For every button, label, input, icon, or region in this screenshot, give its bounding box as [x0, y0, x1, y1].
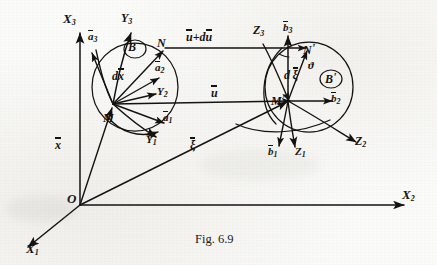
label-axis-x3: X3 [63, 12, 76, 27]
label-axis-y2: Y2 [157, 86, 168, 99]
label-basis-b1: b1 [268, 146, 278, 159]
basis-vector-a3 [92, 53, 113, 104]
figure-caption: Fig. 6.9 [195, 232, 234, 247]
label-basis-a3: a3 [88, 31, 98, 44]
global-axis-x1 [28, 205, 80, 247]
label-axis-y3: Y3 [121, 12, 132, 26]
label-u-plus-du: u+du [186, 31, 212, 43]
label-axis-x1: X1 [26, 242, 39, 257]
label-vector-d-xi-bar: d ξ [284, 69, 298, 81]
label-axis-z3: Z3 [253, 24, 264, 38]
label-xi-bar: ξ [190, 139, 195, 151]
label-point-n: N [157, 37, 166, 49]
curvilinear-curve-a3-left [96, 50, 113, 104]
label-axis-z2: Z2 [355, 135, 366, 149]
label-point-n-prime: N' [303, 42, 315, 56]
label-basis-b2: b2 [331, 93, 341, 106]
label-body-b: B [128, 41, 136, 53]
curvilinear-curve-z1-right [288, 101, 295, 147]
figure-container: X3 X2 X1 O B M N x dx a3 a2 a1 Y2 Y1 Y3 … [0, 0, 437, 265]
diagram-canvas [0, 0, 437, 265]
label-vector-dx-bar: dx [112, 70, 124, 82]
label-u-bar: u [211, 87, 218, 99]
label-basis-a2: a2 [155, 62, 165, 75]
curvilinear-curve-z2-right [288, 101, 356, 142]
axis-vector-y2-left [113, 94, 156, 104]
label-axis-y1: Y1 [146, 134, 157, 147]
vector-u-bar [113, 101, 290, 104]
label-vector-x-bar: x [55, 139, 61, 151]
label-basis-a1: a1 [163, 112, 173, 125]
label-axis-z1: Z1 [295, 146, 306, 159]
label-origin: O [67, 192, 76, 205]
label-axis-x2: X2 [402, 188, 415, 203]
label-point-m: M [103, 112, 114, 124]
label-body-b-prime: B' [325, 71, 336, 85]
basis-vector-a1 [113, 104, 164, 123]
label-point-m-prime: M' [271, 93, 285, 107]
label-basis-b3: b3 [283, 22, 293, 35]
label-angle-theta: ϑ [308, 60, 314, 71]
